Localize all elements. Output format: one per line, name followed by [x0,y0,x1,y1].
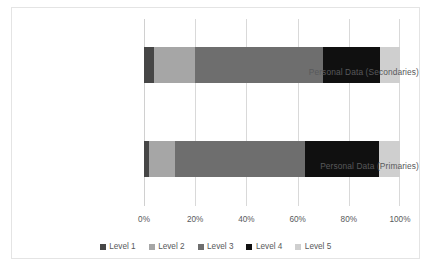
bar-segment-level-3 [175,141,306,177]
bar-segment-level-1 [144,47,154,83]
x-tick-60: 60% [278,215,318,224]
legend-label-level-3: Level 3 [207,242,233,251]
legend-swatch-level-5 [295,244,301,250]
x-tick-0: 0% [124,215,164,224]
bar-personal-data-secondaries [144,47,400,83]
x-tick-80: 80% [329,215,369,224]
bar-segment-level-3 [195,47,323,83]
plot-area [144,19,400,206]
bar-segment-level-5 [379,141,399,177]
bar-personal-data-primaries [144,141,400,177]
legend-swatch-level-4 [246,244,252,250]
category-label-primaries: Personal Data (Primaries) [291,161,419,171]
bar-segment-level-4 [305,141,379,177]
legend-swatch-level-3 [198,244,204,250]
bar-segment-level-5 [380,47,400,83]
x-tick-40: 40% [226,215,266,224]
legend-item-level-4[interactable]: Level 4 [246,242,282,251]
x-tick-20: 20% [175,215,215,224]
bar-segment-level-4 [323,47,379,83]
legend-label-level-5: Level 5 [305,242,331,251]
x-tick-100: 100% [380,215,420,224]
legend-label-level-1: Level 1 [109,242,135,251]
legend-item-level-5[interactable]: Level 5 [295,242,331,251]
legend-label-level-4: Level 4 [256,242,282,251]
legend-swatch-level-2 [149,244,155,250]
legend-item-level-3[interactable]: Level 3 [198,242,234,251]
category-label-secondaries: Personal Data (Secondaries) [291,67,419,77]
legend-item-level-1[interactable]: Level 1 [100,242,136,251]
chart-container: Personal Data (Secondaries) Personal Dat… [11,7,420,259]
chart-legend: Level 1Level 2Level 3Level 4Level 5 [12,242,419,251]
legend-item-level-2[interactable]: Level 2 [149,242,185,251]
legend-swatch-level-1 [100,244,106,250]
legend-label-level-2: Level 2 [158,242,184,251]
bar-segment-level-2 [154,47,195,83]
bar-segment-level-2 [149,141,175,177]
